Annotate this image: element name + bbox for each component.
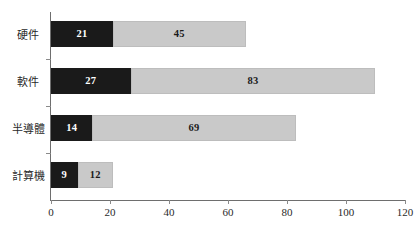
bar-value-label: 12: [90, 170, 101, 181]
y-tick-label-holder: 半導體: [0, 106, 50, 153]
chart-row: 軟件 27 83: [0, 59, 415, 106]
y-axis-tick: [46, 153, 51, 154]
x-axis-tick-label: 0: [31, 207, 71, 218]
stacked-bar[interactable]: 27 83: [51, 68, 375, 94]
chart-row: 計算機 9 12: [0, 153, 415, 200]
y-tick-label-holder: 計算機: [0, 153, 50, 200]
y-axis-tick: [46, 106, 51, 107]
stacked-bar[interactable]: 14 69: [51, 115, 296, 141]
bar-segment-dark[interactable]: 27: [51, 68, 131, 94]
x-axis-tick: [228, 200, 229, 204]
x-axis-tick: [346, 200, 347, 204]
y-axis-tick: [46, 59, 51, 60]
chart-row: 半導體 14 69: [0, 106, 415, 153]
bar-segment-dark[interactable]: 21: [51, 21, 113, 47]
chart-row: 硬件 21 45: [0, 12, 415, 59]
y-tick-label-holder: 軟件: [0, 59, 50, 106]
stacked-bar-chart: 硬件 21 45 軟件 27 83 半導體: [0, 0, 415, 237]
stacked-bar[interactable]: 21 45: [51, 21, 246, 47]
x-axis-tick-label: 100: [326, 207, 366, 218]
x-axis-tick: [169, 200, 170, 204]
x-axis-tick: [51, 200, 52, 204]
bar-value-label: 27: [85, 76, 96, 87]
x-axis-tick-label: 80: [267, 207, 307, 218]
bar-value-label: 69: [189, 123, 200, 134]
bar-segment-light[interactable]: 45: [113, 21, 246, 47]
bar-value-label: 9: [62, 170, 67, 181]
x-axis-tick-label: 60: [208, 207, 248, 218]
x-axis-tick-label: 40: [149, 207, 189, 218]
x-axis-tick: [287, 200, 288, 204]
bar-segment-dark[interactable]: 14: [51, 115, 92, 141]
bar-value-label: 83: [248, 76, 259, 87]
x-axis-tick: [110, 200, 111, 204]
bar-segment-light[interactable]: 83: [131, 68, 376, 94]
y-axis-tick-label: 半導體: [6, 124, 50, 135]
bar-segment-light[interactable]: 69: [92, 115, 296, 141]
y-axis-tick-label: 軟件: [6, 77, 50, 88]
y-axis-tick-label: 硬件: [6, 30, 50, 41]
x-axis-tick: [405, 200, 406, 204]
stacked-bar[interactable]: 9 12: [51, 162, 113, 188]
y-axis-tick-label: 計算機: [6, 171, 50, 182]
bar-value-label: 21: [77, 29, 88, 40]
bar-segment-light[interactable]: 12: [78, 162, 113, 188]
bar-value-label: 45: [174, 29, 185, 40]
x-axis-tick-label: 120: [385, 207, 415, 218]
bar-value-label: 14: [66, 123, 77, 134]
x-axis-tick-label: 20: [90, 207, 130, 218]
y-tick-label-holder: 硬件: [0, 12, 50, 59]
bar-segment-dark[interactable]: 9: [51, 162, 78, 188]
